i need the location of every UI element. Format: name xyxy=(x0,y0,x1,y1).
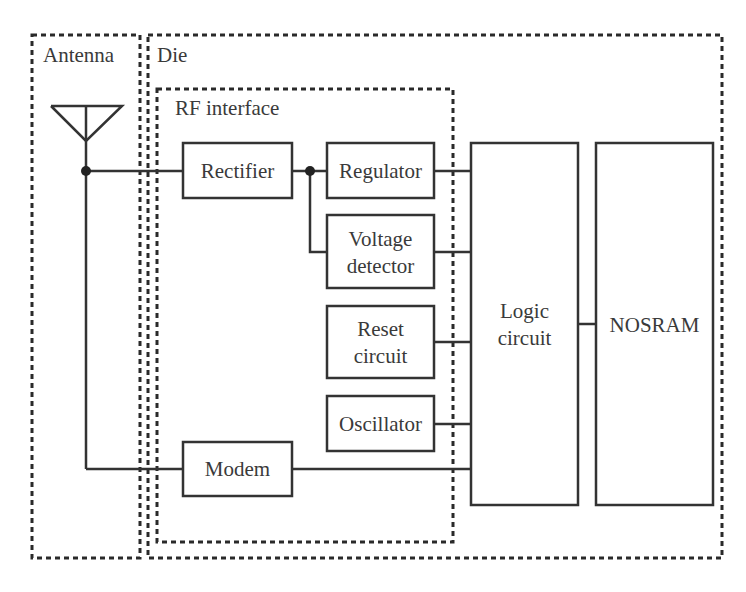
voltage-detector-label-line1: Voltage xyxy=(349,227,413,251)
nosram-label: NOSRAM xyxy=(610,313,700,337)
antenna-icon xyxy=(51,106,122,141)
rf-interface-label: RF interface xyxy=(175,96,279,120)
die-region-label: Die xyxy=(157,43,187,67)
block-modem: Modem xyxy=(183,442,292,496)
block-diagram: Antenna Die RF interface Rectifier Regul… xyxy=(0,0,746,592)
block-oscillator: Oscillator xyxy=(327,396,434,451)
block-logic-circuit: Logic circuit xyxy=(471,143,578,505)
block-regulator: Regulator xyxy=(327,143,434,198)
rectifier-label: Rectifier xyxy=(201,159,274,183)
voltage-detector-label-line2: detector xyxy=(347,254,415,278)
wire-rectifier-voltage-detector xyxy=(310,171,327,252)
block-voltage-detector: Voltage detector xyxy=(327,215,434,288)
logic-circuit-label-line2: circuit xyxy=(498,326,552,350)
reset-circuit-label-line2: circuit xyxy=(354,344,408,368)
block-reset-circuit: Reset circuit xyxy=(327,306,434,378)
oscillator-label: Oscillator xyxy=(339,412,422,436)
antenna-region-label: Antenna xyxy=(43,43,115,67)
modem-label: Modem xyxy=(205,457,270,481)
block-nosram: NOSRAM xyxy=(596,143,713,505)
regulator-label: Regulator xyxy=(339,159,422,183)
junction-rectifier xyxy=(305,166,315,176)
block-rectifier: Rectifier xyxy=(183,143,292,198)
junction-antenna xyxy=(81,166,91,176)
logic-circuit-label-line1: Logic xyxy=(500,299,549,323)
reset-circuit-label-line1: Reset xyxy=(357,317,404,341)
